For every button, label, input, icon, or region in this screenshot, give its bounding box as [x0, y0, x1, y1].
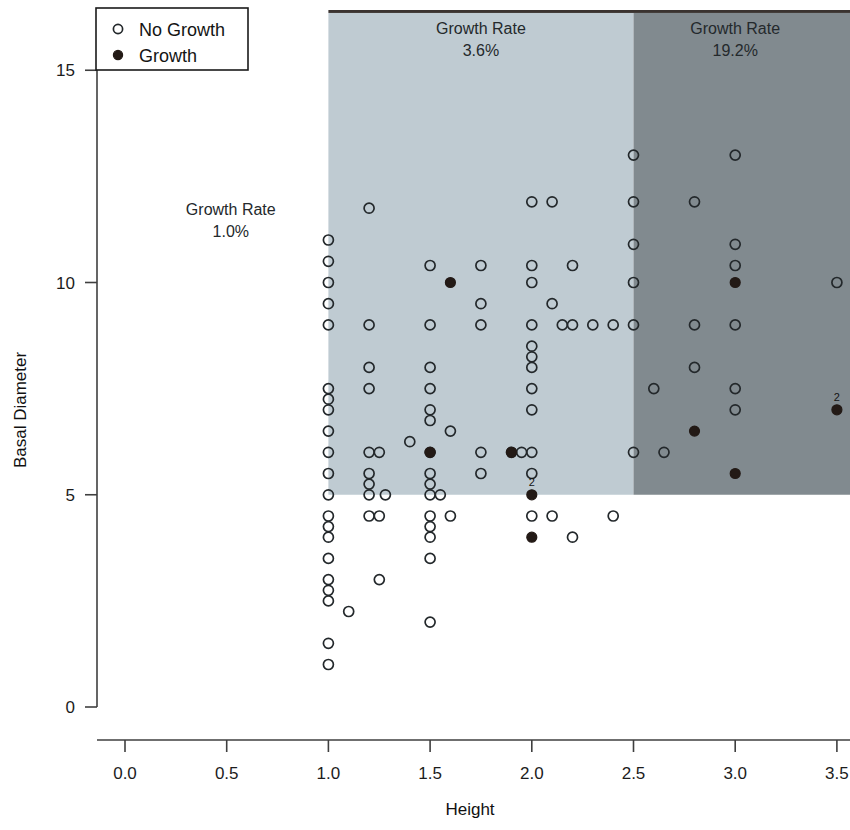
growth-rate-left: Growth Rate1.0%	[186, 201, 276, 240]
x-tick-label: 0.5	[215, 764, 239, 783]
growth-rate-left-line2: 1.0%	[213, 223, 249, 240]
data-point-no-growth	[323, 532, 333, 542]
data-point-no-growth	[445, 511, 455, 521]
x-axis-title: Height	[445, 800, 494, 819]
x-tick-label: 3.5	[825, 764, 849, 783]
data-point-no-growth	[425, 553, 435, 563]
data-point-no-growth	[374, 511, 384, 521]
top-band	[328, 10, 850, 13]
data-point-no-growth	[547, 511, 557, 521]
y-tick-label: 5	[66, 486, 75, 505]
y-tick-label: 0	[66, 698, 75, 717]
scatter-plot-figure: 0510150.00.51.01.52.02.53.03.5HeightBasa…	[0, 0, 850, 830]
growth-rate-middle-line1: Growth Rate	[436, 20, 526, 37]
data-point-no-growth	[425, 617, 435, 627]
data-point-growth	[832, 405, 842, 415]
y-tick-label: 15	[56, 61, 75, 80]
data-point-growth	[730, 469, 740, 479]
data-point-no-growth	[323, 596, 333, 606]
point-count-label: 2	[529, 476, 535, 488]
growth-rate-right-line2: 19.2%	[713, 42, 758, 59]
legend-item-label: No Growth	[139, 20, 225, 40]
data-point-no-growth	[323, 575, 333, 585]
data-point-no-growth	[425, 532, 435, 542]
data-point-growth	[507, 447, 517, 457]
data-point-no-growth	[374, 575, 384, 585]
data-point-no-growth	[344, 607, 354, 617]
growth-rate-right-line1: Growth Rate	[690, 20, 780, 37]
legend-item-label: Growth	[139, 46, 197, 66]
data-point-no-growth	[608, 511, 618, 521]
point-count-label: 2	[834, 391, 840, 403]
dark-region	[634, 13, 850, 495]
data-point-no-growth	[364, 511, 374, 521]
x-tick-label: 3.0	[723, 764, 747, 783]
filled-circle-icon	[113, 50, 122, 59]
data-point-growth	[527, 532, 537, 542]
data-point-growth	[690, 426, 700, 436]
y-tick-label: 10	[56, 274, 75, 293]
data-point-no-growth	[425, 511, 435, 521]
data-point-no-growth	[323, 638, 333, 648]
y-axis-title: Basal Diameter	[11, 352, 30, 469]
data-point-growth	[730, 278, 740, 288]
shaded-regions	[328, 10, 850, 495]
light-region	[328, 13, 633, 495]
data-point-no-growth	[568, 532, 578, 542]
data-point-no-growth	[323, 585, 333, 595]
data-point-no-growth	[323, 522, 333, 532]
growth-rate-middle-line2: 3.6%	[463, 42, 499, 59]
x-tick-label: 0.0	[113, 764, 137, 783]
x-tick-label: 1.0	[317, 764, 341, 783]
data-point-no-growth	[527, 511, 537, 521]
data-point-no-growth	[425, 522, 435, 532]
growth-rate-left-line1: Growth Rate	[186, 201, 276, 218]
x-tick-label: 2.5	[622, 764, 646, 783]
data-point-growth	[527, 490, 537, 500]
data-point-growth	[425, 447, 435, 457]
data-point-no-growth	[323, 553, 333, 563]
data-point-growth	[445, 278, 455, 288]
data-point-no-growth	[323, 660, 333, 670]
data-point-no-growth	[323, 511, 333, 521]
legend[interactable]: No GrowthGrowth	[96, 8, 248, 70]
x-tick-label: 2.0	[520, 764, 544, 783]
x-tick-label: 1.5	[418, 764, 442, 783]
plot-canvas: 0510150.00.51.01.52.02.53.03.5HeightBasa…	[0, 0, 850, 830]
